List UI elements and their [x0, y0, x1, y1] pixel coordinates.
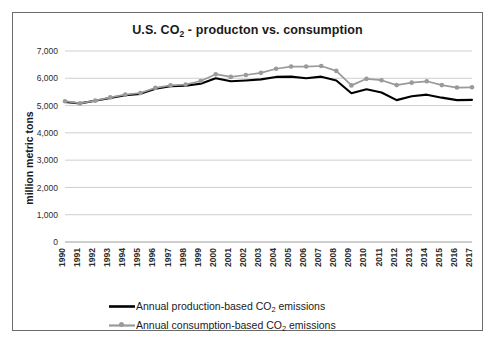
chart-plot: 7,0006,0005,0004,0003,0002,0001,0000 199… [13, 13, 484, 332]
legend-marker-consumption [119, 322, 124, 327]
x-axis-tick-label: 2011 [374, 248, 384, 267]
x-axis-tick-label: 2010 [358, 248, 368, 267]
legend-label-production: Annual production-based CO2 emissions [135, 300, 325, 312]
y-axis-title: million metric tons [23, 111, 35, 205]
legend-item-consumption: Annual consumption-based CO2 emissions [109, 315, 439, 334]
data-point-marker [108, 95, 113, 100]
legend-swatch-consumption [109, 319, 135, 331]
legend-swatch-production [109, 300, 135, 312]
data-point-marker [93, 98, 98, 103]
y-axis-tick-label: 1,000 [37, 210, 59, 220]
data-point-marker [304, 64, 309, 69]
data-point-marker [319, 64, 324, 69]
data-point-marker [183, 82, 188, 87]
x-axis-tick-labels: 1990199119921993199419951996199719981999… [57, 248, 474, 267]
x-axis-tick-label: 2002 [238, 248, 248, 267]
data-point-marker [409, 80, 414, 85]
data-point-marker [63, 99, 68, 104]
legend-label-consumption: Annual consumption-based CO2 emissions [135, 319, 336, 331]
data-point-marker [379, 78, 384, 83]
y-axis-tick-label: 2,000 [37, 183, 59, 193]
chart-legend: Annual production-based CO2 emissions An… [109, 296, 439, 334]
x-axis-tick-label: 1997 [163, 248, 173, 267]
data-point-marker [334, 69, 339, 74]
y-axis-tick-label: 6,000 [37, 73, 59, 83]
y-axis-tick-label: 7,000 [37, 46, 59, 56]
y-axis-tick-label: 5,000 [37, 101, 59, 111]
data-point-marker [78, 101, 83, 106]
y-axis-tick-label: 0 [53, 237, 58, 247]
data-point-marker [274, 66, 279, 71]
x-axis-tick-label: 2009 [343, 248, 353, 267]
x-axis-tick-label: 1999 [193, 248, 203, 267]
legend-line-production [109, 305, 135, 308]
data-point-marker [229, 75, 234, 80]
data-point-marker [244, 73, 249, 78]
x-axis-tick-label: 2004 [268, 248, 278, 267]
data-point-marker [289, 64, 294, 69]
gridlines [65, 51, 472, 242]
x-axis-tick-label: 2003 [253, 248, 263, 267]
x-axis-tick-label: 1998 [178, 248, 188, 267]
x-axis-tick-label: 1992 [87, 248, 97, 267]
x-axis-tick-label: 2017 [464, 248, 474, 267]
data-point-marker [349, 83, 354, 88]
data-point-marker [364, 77, 369, 82]
data-point-marker [440, 83, 445, 88]
data-point-marker [213, 72, 218, 77]
legend-item-production: Annual production-based CO2 emissions [109, 296, 439, 315]
x-axis-tick-label: 2000 [208, 248, 218, 267]
data-point-marker [153, 86, 158, 91]
y-axis-tick-label: 3,000 [37, 155, 59, 165]
chart-frame: U.S. CO2 - producton vs. consumption 7,0… [12, 12, 483, 331]
x-axis-tick-label: 2005 [283, 248, 293, 267]
data-point-marker [198, 79, 203, 84]
x-axis-tick-label: 1990 [57, 248, 67, 267]
x-axis-tick-label: 2016 [449, 248, 459, 267]
x-axis-tick-label: 2015 [434, 248, 444, 267]
x-axis-tick-label: 2013 [404, 248, 414, 267]
x-axis-tick-label: 2001 [223, 248, 233, 267]
x-axis-tick-label: 1993 [102, 248, 112, 267]
x-axis-tick-label: 1995 [132, 248, 142, 267]
y-axis-title-text: million metric tons [23, 111, 35, 205]
data-point-marker [424, 79, 429, 84]
x-axis-tick-label: 2014 [419, 248, 429, 267]
data-point-marker [470, 85, 475, 90]
data-point-marker [138, 91, 143, 96]
data-point-marker [455, 85, 460, 90]
data-point-marker [168, 83, 173, 88]
x-axis-tick-label: 1994 [117, 248, 127, 267]
data-point-marker [394, 83, 399, 88]
y-axis-tick-label: 4,000 [37, 128, 59, 138]
x-axis-tick-label: 2006 [298, 248, 308, 267]
x-axis-tick-label: 1991 [72, 248, 82, 267]
data-point-marker [259, 71, 264, 76]
x-axis-tick-label: 2007 [313, 248, 323, 267]
y-axis-tick-labels: 7,0006,0005,0004,0003,0002,0001,0000 [37, 46, 59, 247]
x-axis-tick-label: 1996 [147, 248, 157, 267]
x-axis-tick-label: 2012 [389, 248, 399, 267]
data-series-layer [63, 64, 475, 106]
x-axis-tick-label: 2008 [328, 248, 338, 267]
data-point-marker [123, 92, 128, 97]
